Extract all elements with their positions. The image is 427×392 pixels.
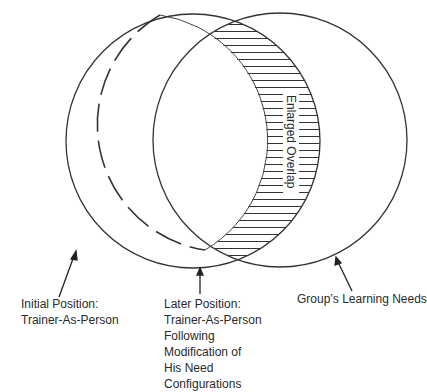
label-line: Configurations [164,376,262,392]
label-group-learning-needs: Group’s Learning Needs [297,291,427,307]
overlap-label: Enlarged Overlap [284,95,298,189]
label-later-position: Later Position: Trainer-As-Person Follow… [164,296,262,392]
label-line: Later Position: [164,296,262,312]
arrow-initial [59,251,77,297]
label-line: Trainer-As-Person [164,312,262,328]
label-line: His Need [164,360,262,376]
label-line: Following [164,328,262,344]
arrow-group [335,257,352,291]
label-initial-position: Initial Position: Trainer-As-Person [21,296,119,328]
label-line: Initial Position: [21,296,119,312]
label-line: Modification of [164,344,262,360]
label-line: Trainer-As-Person [21,312,119,328]
arrow-later [197,268,203,294]
label-line: Group’s Learning Needs [297,291,427,307]
